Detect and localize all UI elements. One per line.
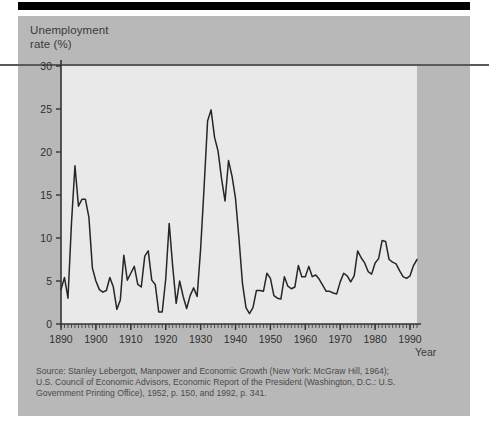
x-axis-tick-label: 1950 [259,333,283,345]
x-axis-tick-label: 1990 [398,333,422,345]
source-line-3: Government Printing Office), 1952, p. 15… [36,388,456,399]
x-axis-title: Year [415,346,436,358]
source-note: Source: Stanley Lebergott, Manpower and … [36,366,456,399]
x-axis-tick-label: 1900 [84,333,108,345]
y-axis-tick-label: 25 [40,103,52,115]
x-axis-tick-label: 1960 [294,333,318,345]
x-axis-tick-label: 1970 [329,333,353,345]
x-axis-tick-label: 1890 [49,333,73,345]
data-series-line [61,110,417,314]
y-axis-tick-label: 30 [40,60,52,72]
y-axis-tick-label: 10 [40,232,52,244]
x-axis-tick-label: 1920 [154,333,178,345]
x-axis-tick-label: 1910 [119,333,143,345]
x-axis-tick-label: 1930 [189,333,213,345]
y-axis-tick-label: 5 [46,275,52,287]
chart-figure-page: Unemployment rate (%) 051015202530189019… [0,0,489,432]
axes-group [56,60,421,330]
x-axis-tick-label: 1940 [224,333,248,345]
y-axis-tick-label: 15 [40,189,52,201]
source-line-2: U.S. Council of Economic Advisors, Econo… [36,377,456,388]
data-series-group [61,110,417,314]
y-axis-tick-label: 20 [40,146,52,158]
y-axis-tick-label: 0 [46,318,52,330]
tick-labels-group: 0510152025301890190019101920193019401950… [40,60,422,345]
source-line-1: Source: Stanley Lebergott, Manpower and … [36,366,456,377]
x-axis-tick-label: 1980 [363,333,387,345]
